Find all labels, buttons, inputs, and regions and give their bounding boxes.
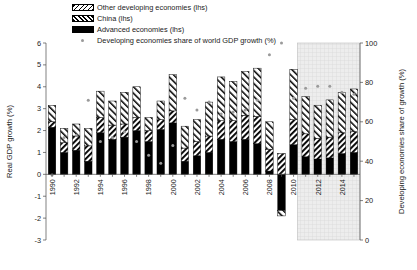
- bar-segment: [229, 142, 236, 175]
- y-tick-label-left: 6: [37, 39, 41, 48]
- bar-segment: [326, 158, 333, 174]
- y-axis-title-left: Real GDP growth (%): [5, 105, 14, 178]
- y-tick-label-right: 0: [365, 236, 369, 245]
- share-marker-dot: [87, 99, 90, 102]
- bar-segment: [97, 117, 104, 132]
- bar-segment: [60, 152, 67, 174]
- legend-swatch-advanced-icon: [72, 26, 94, 33]
- legend-swatch-other-developing-icon: [72, 4, 94, 11]
- share-marker-dot: [220, 112, 223, 115]
- legend-item-china: China (lhs): [72, 13, 372, 24]
- y-tick-label-left: 2: [37, 126, 41, 135]
- share-marker-dot: [292, 97, 295, 100]
- bar-segment: [266, 122, 273, 149]
- bar-segment: [314, 105, 321, 138]
- bar-segment: [145, 131, 152, 142]
- share-marker-dot: [208, 101, 211, 104]
- bar-segment: [60, 143, 67, 153]
- bar-segment: [350, 152, 357, 174]
- bar-segment: [169, 75, 176, 111]
- bar-segment: [242, 139, 249, 174]
- x-tick-label: 2000: [169, 179, 178, 195]
- bar-segment: [85, 128, 92, 146]
- legend-label-china: China (lhs): [97, 14, 133, 23]
- bar-segment: [254, 144, 261, 175]
- share-marker-dot: [328, 85, 331, 88]
- y-tick-label-left: 5: [37, 60, 41, 69]
- bar-segment: [338, 154, 345, 175]
- bar-segment: [193, 142, 200, 156]
- bar-segment: [326, 100, 333, 137]
- bar-segment: [169, 123, 176, 174]
- bar-segment: [169, 111, 176, 123]
- y-axis-title-right: Developing economies share of growth (%): [397, 68, 406, 214]
- bar-segment: [72, 150, 79, 174]
- x-tick-label: 2004: [217, 179, 226, 195]
- share-marker-dot: [195, 108, 198, 111]
- share-marker-dot: [268, 53, 271, 56]
- bar-segment: [145, 142, 152, 175]
- bar-segment: [314, 159, 321, 174]
- x-tick-label: 2010: [289, 179, 298, 195]
- bar-segment: [48, 122, 55, 127]
- share-marker-dot: [99, 140, 102, 143]
- bar-segment: [278, 210, 285, 215]
- bar-segment: [217, 139, 224, 174]
- y-tick-label-left: 0: [37, 170, 41, 179]
- y-tick-label-left: -1: [34, 192, 41, 201]
- bar-segment: [205, 152, 212, 174]
- legend-label-share-marker: Developing economies share of world GDP …: [97, 36, 276, 45]
- bar-segment: [72, 136, 79, 150]
- bar-segment: [338, 92, 345, 132]
- share-marker-dot: [159, 162, 162, 165]
- bar-segment: [145, 117, 152, 130]
- bar-segment: [60, 128, 67, 142]
- bar-segment: [85, 161, 92, 174]
- x-tick-label: 2012: [314, 179, 323, 195]
- share-marker-dot: [123, 130, 126, 133]
- bar-segment: [133, 117, 140, 130]
- x-tick-label: 2006: [241, 179, 250, 195]
- share-marker-dot: [75, 134, 78, 137]
- chart-root: Other developing economies (lhs) China (…: [0, 0, 417, 270]
- x-tick-label: 1994: [96, 179, 105, 195]
- bar-segment: [193, 156, 200, 175]
- bar-segment: [205, 102, 212, 136]
- bar-segment: [266, 171, 273, 174]
- y-tick-label-right: 20: [365, 196, 373, 205]
- bar-segment: [133, 131, 140, 175]
- bar-segment: [314, 138, 321, 159]
- bar-segment: [157, 101, 164, 120]
- share-marker-dot: [183, 97, 186, 100]
- legend-item-other-developing: Other developing economies (lhs): [72, 2, 372, 13]
- bar-segment: [242, 115, 249, 139]
- bar-segment: [254, 116, 261, 143]
- y-tick-label-left: 1: [37, 148, 41, 157]
- x-tick-label: 2002: [193, 179, 202, 195]
- bar-segment: [121, 137, 128, 174]
- bar-segment: [229, 121, 236, 142]
- bar-segment: [181, 148, 188, 161]
- share-marker-dot: [352, 93, 355, 96]
- y-tick-label-left: -3: [34, 236, 41, 245]
- bar-segment: [290, 120, 297, 145]
- bar-segment: [48, 105, 55, 121]
- chart-legend: Other developing economies (lhs) China (…: [72, 2, 372, 46]
- x-tick-label: 1992: [72, 179, 81, 195]
- share-marker-dot: [135, 140, 138, 143]
- bar-segment: [302, 134, 309, 157]
- share-marker-dot: [316, 85, 319, 88]
- y-tick-label-right: 60: [365, 117, 373, 126]
- y-tick-label-left: -2: [34, 214, 41, 223]
- legend-label-other-developing: Other developing economies (lhs): [97, 3, 208, 12]
- bar-segment: [326, 137, 333, 158]
- bar-segment: [48, 127, 55, 174]
- bar-segment: [121, 92, 128, 124]
- x-tick-label: 2008: [265, 179, 274, 195]
- bar-segment: [266, 149, 273, 171]
- bar-segment: [205, 136, 212, 152]
- bar-segment: [157, 120, 164, 130]
- legend-item-share-marker: Developing economies share of world GDP …: [72, 35, 372, 46]
- bar-segment: [254, 68, 261, 116]
- share-marker-dot: [147, 154, 150, 157]
